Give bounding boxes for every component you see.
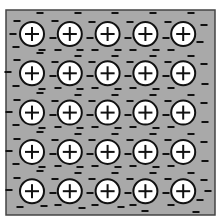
electron-minus-icon [115, 88, 122, 90]
electron-minus-icon [79, 207, 86, 209]
electron-minus-icon [52, 178, 59, 180]
electron-minus-icon [37, 92, 44, 94]
electron-minus-icon [188, 12, 195, 14]
electron-minus-icon [52, 61, 59, 63]
electron-minus-icon [130, 49, 137, 51]
electron-minus-icon [37, 12, 44, 14]
positive-ion [171, 101, 195, 125]
electron-minus-icon [92, 165, 99, 167]
electron-minus-icon [168, 49, 175, 51]
electron-minus-icon [6, 189, 13, 191]
electron-minus-icon [55, 49, 62, 51]
electron-minus-icon [13, 163, 20, 165]
electron-minus-icon [77, 166, 84, 168]
electron-minus-icon [55, 165, 62, 167]
positive-ion [133, 140, 157, 164]
electron-minus-icon [77, 127, 84, 129]
electron-minus-icon [39, 49, 46, 51]
electron-minus-icon [89, 21, 96, 23]
electron-minus-icon [89, 61, 96, 63]
electron-minus-icon [87, 192, 94, 194]
electron-minus-icon [75, 172, 82, 174]
electron-minus-icon [168, 87, 175, 89]
metallic-bond-diagram: Metallic bonding: lattice of positive io… [0, 0, 223, 224]
positive-ion [96, 101, 120, 125]
electron-minus-icon [153, 49, 160, 51]
positive-ion [171, 179, 195, 203]
positive-ion [96, 140, 120, 164]
electron-minus-icon [150, 12, 157, 14]
electron-minus-icon [92, 49, 99, 51]
electron-minus-icon [5, 71, 12, 73]
positive-ion [20, 22, 44, 46]
electron-minus-icon [127, 100, 134, 102]
electron-minus-icon [127, 139, 134, 141]
electron-minus-icon [52, 20, 59, 22]
electron-minus-icon [197, 41, 204, 43]
electron-minus-icon [130, 165, 137, 167]
positive-ion [133, 22, 157, 46]
electron-minus-icon [75, 12, 82, 14]
electron-minus-icon [163, 37, 170, 39]
electron-minus-icon [163, 192, 170, 194]
electron-minus-icon [201, 63, 208, 65]
electron-minus-icon [39, 166, 46, 168]
positive-ion [133, 61, 157, 85]
positive-ion [20, 179, 44, 203]
electron-minus-icon [75, 133, 82, 135]
electron-minus-icon [87, 153, 94, 155]
electron-minus-icon [14, 59, 21, 61]
electron-minus-icon [202, 83, 209, 85]
electron-minus-icon [118, 206, 125, 208]
electron-minus-icon [89, 139, 96, 141]
electron-minus-icon [168, 204, 175, 206]
electron-minus-icon [165, 178, 172, 180]
electron-minus-icon [165, 100, 172, 102]
electron-minus-icon [205, 190, 212, 192]
electron-minus-icon [77, 49, 84, 51]
electron-minus-icon [201, 179, 208, 181]
electron-minus-icon [165, 139, 172, 141]
electron-minus-icon [41, 205, 48, 207]
positive-ion [20, 101, 44, 125]
electron-minus-icon [125, 75, 132, 77]
electron-minus-icon [87, 75, 94, 77]
electron-minus-icon [13, 85, 20, 87]
positive-ion [133, 179, 157, 203]
electron-minus-icon [125, 37, 132, 39]
electron-minus-icon [201, 102, 208, 104]
electron-minus-icon [39, 88, 46, 90]
electron-minus-icon [75, 55, 82, 57]
electron-minus-icon [115, 127, 122, 129]
electron-minus-icon [52, 100, 59, 102]
electron-minus-icon [130, 87, 137, 89]
electron-minus-icon [193, 211, 200, 213]
electron-minus-icon [112, 55, 119, 57]
positive-ion [96, 61, 120, 85]
electron-minus-icon [130, 204, 137, 206]
electron-minus-icon [55, 126, 62, 128]
electron-minus-icon [150, 94, 157, 96]
electron-minus-icon [125, 192, 132, 194]
positive-ion [58, 61, 82, 85]
electron-minus-icon [10, 33, 17, 35]
positive-ion [96, 179, 120, 203]
electron-minus-icon [142, 210, 149, 212]
positive-ion [171, 140, 195, 164]
electron-minus-icon [50, 75, 57, 77]
electron-minus-icon [39, 127, 46, 129]
electron-minus-icon [89, 178, 96, 180]
electron-minus-icon [14, 138, 21, 140]
electron-minus-icon [112, 133, 119, 135]
electron-minus-icon [14, 177, 21, 179]
electron-minus-icon [75, 94, 82, 96]
positive-ion [171, 61, 195, 85]
electron-minus-icon [168, 165, 175, 167]
positive-ion [133, 101, 157, 125]
electron-minus-icon [168, 126, 175, 128]
electron-minus-icon [127, 61, 134, 63]
electron-minus-icon [201, 24, 208, 26]
positive-ion [58, 22, 82, 46]
electron-minus-icon [13, 46, 20, 48]
electron-minus-icon [127, 178, 134, 180]
